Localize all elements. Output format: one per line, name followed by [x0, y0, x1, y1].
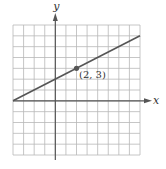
x-axis-arrow-icon [144, 98, 152, 103]
x-axis-label: x [153, 94, 160, 107]
coordinate-graph: y x (2, 3) [0, 0, 166, 169]
point-label: (2, 3) [79, 69, 106, 80]
y-axis-label: y [52, 0, 60, 13]
grid [13, 25, 140, 155]
y-axis-arrow-icon [53, 13, 58, 21]
